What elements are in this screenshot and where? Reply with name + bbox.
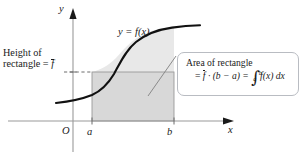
callout-equals-first: =	[195, 70, 203, 81]
f-bar-symbol: f	[51, 58, 54, 69]
average-value-rectangle	[92, 72, 174, 121]
callout-f-bar-symbol: f	[203, 70, 206, 81]
callout-line1: Area of rectangle	[186, 57, 253, 68]
y-axis-arrowhead	[69, 8, 76, 19]
height-label-line2-text: rectangle =	[3, 58, 51, 69]
height-of-rectangle-label: Height of rectangle = f	[3, 47, 54, 70]
integral-sign: ∫ba	[251, 72, 260, 82]
integral-lower-limit: a	[253, 76, 256, 82]
height-label-line1: Height of	[3, 47, 42, 58]
x-tick-label-b: b	[167, 126, 172, 138]
integral-upper-limit: b	[259, 70, 262, 76]
height-label-line2: rectangle = f	[3, 58, 54, 69]
x-tick-label-a: a	[87, 126, 92, 138]
callout-mid-expression: · (b − a) =	[205, 70, 251, 81]
curve-label: y = f(x)	[118, 26, 150, 38]
average-value-integral-figure: y x O a b y = f(x) Height of rectangle =…	[0, 0, 305, 156]
origin-label: O	[62, 125, 70, 137]
integrand: f(x) dx	[260, 70, 285, 81]
callout-formula: = f · (b − a) = ∫baf(x) dx	[195, 70, 285, 82]
area-of-rectangle-callout: Area of rectangle = f · (b − a) = ∫baf(x…	[177, 52, 299, 96]
x-axis-label: x	[228, 124, 233, 136]
y-axis-label: y	[59, 3, 64, 15]
